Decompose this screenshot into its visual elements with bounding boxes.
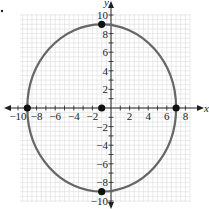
right-vertex-point	[173, 104, 180, 111]
y-tick-label: 2	[103, 83, 109, 95]
x-tick-label: −4	[68, 110, 80, 122]
y-tick-label: 6	[103, 46, 109, 58]
y-tick-label: −8	[96, 176, 108, 188]
x-tick-label: 8	[183, 110, 189, 122]
y-tick-label: 10	[97, 9, 109, 21]
list-bullet	[1, 10, 3, 12]
y-tick-label: −2	[96, 121, 108, 133]
ellipse-graph: −10−8−6−4−22468−10−8−6−4−2246810xy	[0, 0, 209, 209]
y-tick-label: 4	[103, 65, 109, 77]
x-tick-label: 2	[127, 110, 133, 122]
x-axis-label: x	[203, 102, 209, 114]
y-tick-label: −10	[91, 195, 109, 207]
x-tick-label: 4	[145, 110, 151, 122]
y-axis-label: y	[103, 0, 109, 8]
x-tick-label: −10	[9, 110, 27, 122]
x-axis-right-arrow-icon	[197, 105, 204, 111]
y-tick-label: −4	[96, 139, 108, 151]
center-point	[98, 104, 105, 111]
y-axis-top-arrow-icon	[108, 1, 114, 8]
y-tick-label: 8	[103, 28, 109, 40]
x-tick-label: −8	[31, 110, 43, 122]
x-tick-label: −6	[49, 110, 61, 122]
x-tick-label: 6	[164, 110, 170, 122]
y-axis-bottom-arrow-icon	[108, 202, 114, 209]
y-tick-label: −6	[96, 158, 108, 170]
